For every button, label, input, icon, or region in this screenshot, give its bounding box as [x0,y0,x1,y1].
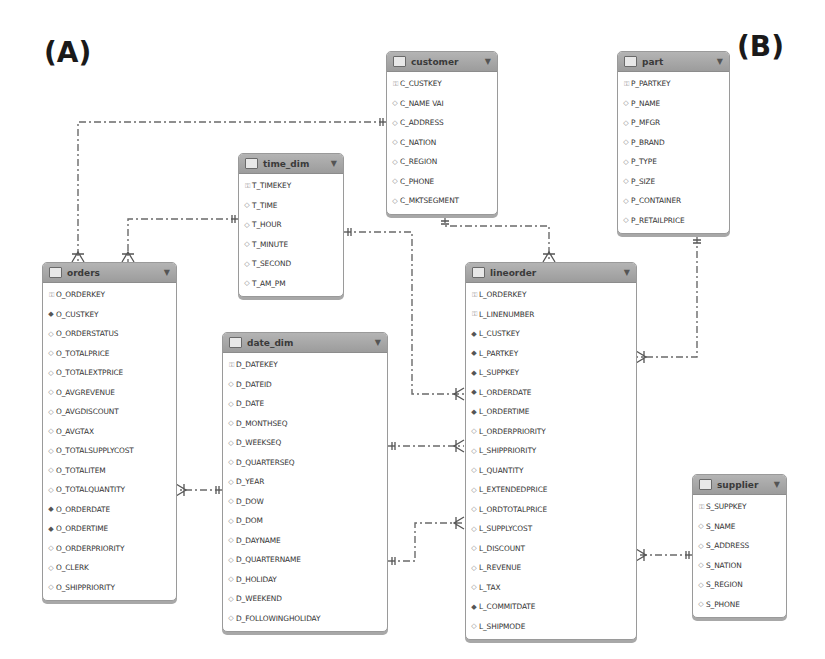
column-row[interactable]: ◇L_DISCOUNT [466,539,636,559]
column-row[interactable]: ◆O_ORDERTIME [43,519,176,539]
column-row[interactable]: ◇P_NAME [618,94,729,114]
column-row[interactable]: ◆L_ORDERTIME [466,402,636,422]
column-row[interactable]: ◇L_TAX [466,578,636,598]
column-row[interactable]: ◇O_TOTALSUPPLYCOST [43,441,176,461]
chevron-down-icon[interactable]: ▼ [375,338,381,347]
column-row[interactable]: ◇T_SECOND [239,254,343,274]
column-row[interactable]: ◆L_ORDERDATE [466,383,636,403]
column-row[interactable]: ◇D_HOLIDAY [223,570,387,590]
column-row[interactable]: ◇O_SHIPPRIORITY [43,578,176,598]
relationship-customer-lineorder[interactable] [445,216,549,262]
column-row[interactable]: ⚿C_CUSTKEY [387,74,497,94]
entity-header[interactable]: lineorder▼ [466,263,636,283]
column-row[interactable]: ◇P_CONTAINER [618,191,729,211]
column-row[interactable]: ◇O_TOTALEXTPRICE [43,363,176,383]
entity-header[interactable]: part▼ [618,52,729,72]
column-row[interactable]: ◇T_HOUR [239,215,343,235]
column-row[interactable]: ⚿L_ORDERKEY [466,285,636,305]
entity-header[interactable]: customer▼ [387,52,497,72]
column-row[interactable]: ◇D_DOM [223,511,387,531]
column-row[interactable]: ◇O_AVGTAX [43,422,176,442]
column-row[interactable]: ⚿D_DATEKEY [223,355,387,375]
column-row[interactable]: ◇D_WEEKEND [223,589,387,609]
column-row[interactable]: ◇C_ADDRESS [387,113,497,133]
column-row[interactable]: ◆L_CUSTKEY [466,324,636,344]
column-row[interactable]: ◇P_BRAND [618,133,729,153]
relationship-time-orders[interactable] [128,219,238,262]
column-row[interactable]: ◇O_TOTALQUANTITY [43,480,176,500]
column-row[interactable]: ◇C_REGION [387,152,497,172]
column-row[interactable]: ◇O_AVGREVENUE [43,383,176,403]
chevron-down-icon[interactable]: ▼ [624,268,630,277]
entity-time-dim[interactable]: time_dim▼⚿T_TIMEKEY◇T_TIME◇T_HOUR◇T_MINU… [238,153,344,297]
column-row[interactable]: ◇D_QUARTERNAME [223,550,387,570]
column-row[interactable]: ◇D_DATE [223,394,387,414]
column-row[interactable]: ◇T_AM_PM [239,274,343,294]
column-row[interactable]: ◇D_DATEID [223,375,387,395]
column-row[interactable]: ◇D_QUARTERSEQ [223,453,387,473]
column-row[interactable]: ◇L_EXTENDEDPRICE [466,480,636,500]
column-row[interactable]: ◇D_YEAR [223,472,387,492]
column-row[interactable]: ◇L_REVENUE [466,558,636,578]
column-row[interactable]: ◇O_TOTALITEM [43,461,176,481]
column-row[interactable]: ⚿S_SUPPKEY [693,497,786,517]
entity-header[interactable]: date_dim▼ [223,333,387,353]
column-row[interactable]: ◇T_MINUTE [239,235,343,255]
column-row[interactable]: ◇O_CLERK [43,558,176,578]
chevron-down-icon[interactable]: ▼ [717,57,723,66]
column-row[interactable]: ⚿O_ORDERKEY [43,285,176,305]
column-row[interactable]: ◇O_AVGDISCOUNT [43,402,176,422]
entity-customer[interactable]: customer▼⚿C_CUSTKEY◇C_NAME VAI◇C_ADDRESS… [386,51,498,215]
column-row[interactable]: ◇L_ORDTOTALPRICE [466,500,636,520]
entity-header[interactable]: orders▼ [43,263,176,283]
column-row[interactable]: ◇S_NATION [693,556,786,576]
entity-date-dim[interactable]: date_dim▼⚿D_DATEKEY◇D_DATEID◇D_DATE◇D_MO… [222,332,388,632]
column-row[interactable]: ◇D_FOLLOWINGHOLIDAY [223,609,387,629]
entity-header[interactable]: supplier▼ [693,475,786,495]
column-row[interactable]: ◇S_PHONE [693,595,786,615]
column-row[interactable]: ◇S_ADDRESS [693,536,786,556]
column-row[interactable]: ◇C_NATION [387,133,497,153]
entity-part[interactable]: part▼⚿P_PARTKEY◇P_NAME◇P_MFGR◇P_BRAND◇P_… [617,51,730,234]
column-row[interactable]: ◇C_PHONE [387,172,497,192]
column-row[interactable]: ◇L_SUPPLYCOST [466,519,636,539]
entity-supplier[interactable]: supplier▼⚿S_SUPPKEY◇S_NAME◇S_ADDRESS◇S_N… [692,474,787,618]
column-row[interactable]: ◇L_QUANTITY [466,461,636,481]
column-row[interactable]: ◇P_TYPE [618,152,729,172]
chevron-down-icon[interactable]: ▼ [774,480,780,489]
column-row[interactable]: ◇P_SIZE [618,172,729,192]
column-row[interactable]: ◇L_SHIPPRIORITY [466,441,636,461]
entity-orders[interactable]: orders▼⚿O_ORDERKEY◆O_CUSTKEY◇O_ORDERSTAT… [42,262,177,601]
relationship-date-lineorder-2[interactable] [388,523,464,561]
column-row[interactable]: ⚿T_TIMEKEY [239,176,343,196]
column-row[interactable]: ◆O_CUSTKEY [43,305,176,325]
entity-lineorder[interactable]: lineorder▼⚿L_ORDERKEY⚿L_LINENUMBER◆L_CUS… [465,262,637,640]
column-row[interactable]: ◇S_REGION [693,575,786,595]
column-row[interactable]: ◇D_MONTHSEQ [223,414,387,434]
column-row[interactable]: ◆O_ORDERDATE [43,500,176,520]
column-row[interactable]: ◇O_ORDERPRIORITY [43,539,176,559]
entity-header[interactable]: time_dim▼ [239,154,343,174]
column-row[interactable]: ◇P_MFGR [618,113,729,133]
chevron-down-icon[interactable]: ▼ [331,159,337,168]
column-row[interactable]: ◇C_MKTSEGMENT [387,191,497,211]
column-row[interactable]: ⚿L_LINENUMBER [466,305,636,325]
column-row[interactable]: ◇D_DAYNAME [223,531,387,551]
column-row[interactable]: ◇P_RETAILPRICE [618,211,729,231]
column-row[interactable]: ◇D_WEEKSEQ [223,433,387,453]
column-row[interactable]: ◇O_TOTALPRICE [43,344,176,364]
column-row[interactable]: ◇C_NAME VAI [387,94,497,114]
column-row[interactable]: ⚿P_PARTKEY [618,74,729,94]
chevron-down-icon[interactable]: ▼ [164,268,170,277]
chevron-down-icon[interactable]: ▼ [485,57,491,66]
column-row[interactable]: ◇O_ORDERSTATUS [43,324,176,344]
column-row[interactable]: ◇T_TIME [239,196,343,216]
column-row[interactable]: ◆L_COMMITDATE [466,597,636,617]
column-row[interactable]: ◇S_NAME [693,517,786,537]
column-row[interactable]: ◇L_ORDERPRIORITY [466,422,636,442]
column-row[interactable]: ◇L_SHIPMODE [466,617,636,637]
column-row[interactable]: ◇D_DOW [223,492,387,512]
relationship-part-lineorder[interactable] [636,236,697,357]
column-row[interactable]: ◆L_PARTKEY [466,344,636,364]
column-row[interactable]: ◆L_SUPPKEY [466,363,636,383]
